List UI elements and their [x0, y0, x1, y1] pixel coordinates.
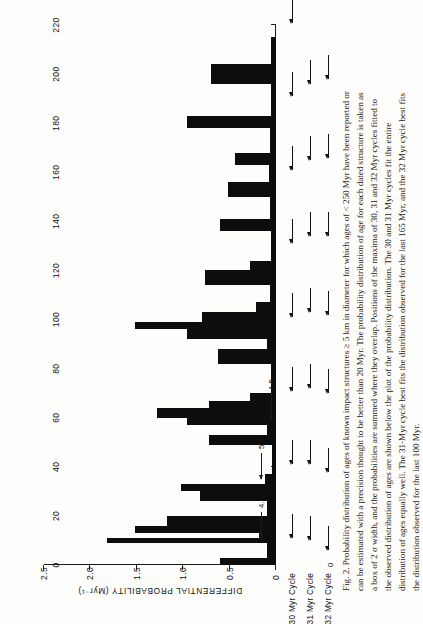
- cycle-maximum-marker: [328, 134, 329, 158]
- histogram-bar: [187, 329, 276, 339]
- cycle-row-label: 31 Myr Cycle: [306, 573, 315, 624]
- cycle-maximum-marker: [292, 219, 293, 243]
- histogram-bar: [267, 339, 276, 349]
- cycle-row: 32 Myr Cycle: [328, 25, 329, 565]
- cycle-maximum-marker: [310, 288, 311, 312]
- annotation-arrow: [271, 394, 272, 420]
- cycle-maximum-marker: [292, 293, 293, 317]
- cycle-row-label: 32 Myr Cycle: [324, 573, 333, 624]
- histogram-bar: [256, 302, 276, 312]
- cycle-maximum-marker: [328, 526, 329, 550]
- annotation-arrow: [261, 512, 262, 538]
- histogram-bar: [270, 285, 276, 302]
- histogram-bar: [272, 445, 276, 474]
- histogram-bar: [220, 558, 276, 565]
- caption-line: a box of 2 σ width, and the probabilitie…: [368, 5, 382, 591]
- cycle-maximum-marker: [292, 514, 293, 538]
- annotation-label: 4.5: [257, 497, 266, 508]
- annotation-label: 5.2: [257, 438, 266, 449]
- histogram-bar: [271, 231, 276, 260]
- cycle-maximum-marker: [310, 516, 311, 540]
- histogram-bar: [270, 197, 276, 219]
- histogram-bar: [187, 116, 276, 128]
- cycle-maximum-marker: [310, 212, 311, 236]
- cycle-row: 31 Myr Cycle: [310, 25, 311, 565]
- y-axis-label: DIFFERENTIAL PROBABILITY (Myr⁻¹): [78, 586, 242, 596]
- histogram-bar: [250, 261, 276, 271]
- histogram-bar: [228, 182, 276, 197]
- histogram-bar: [267, 425, 276, 435]
- caption-line: Fig. 2. Probability distribution of ages…: [340, 5, 354, 591]
- histogram-bar: [250, 393, 276, 400]
- histogram-bar: [271, 84, 276, 116]
- caption-line: distribution of ages equally well. The 3…: [396, 5, 410, 591]
- histogram-bar: [135, 526, 276, 533]
- histogram-bar: [209, 401, 276, 408]
- cycle-maximum-marker: [292, 0, 293, 23]
- histogram-bar: [135, 322, 276, 329]
- cycle-maximum-marker: [292, 367, 293, 391]
- cycle-maximum-marker: [328, 212, 329, 236]
- cycle-maximum-marker: [310, 440, 311, 464]
- y-tick: [275, 565, 276, 570]
- caption-line: the observed distribution of ages are sh…: [382, 5, 396, 591]
- histogram-bar: [269, 165, 276, 182]
- figure-caption: Fig. 2. Probability distribution of ages…: [340, 5, 423, 591]
- y-tick-label: 1.5: [132, 575, 142, 580]
- cycle-maximum-marker: [328, 55, 329, 79]
- histogram-bar: [235, 153, 276, 165]
- y-tick-label: 2.0: [85, 575, 95, 580]
- cycle-row: 30 Myr Cycle: [292, 25, 293, 565]
- y-tick-label: 1.0: [178, 575, 188, 580]
- histogram-bar: [157, 408, 276, 418]
- histogram-bar: [107, 538, 276, 543]
- cycle-maximum-marker: [328, 448, 329, 472]
- histogram-bar: [205, 270, 276, 285]
- cycle-row-label: 30 Myr Cycle: [288, 573, 297, 624]
- cycle-maximum-marker: [328, 369, 329, 393]
- cycle-maximum-marker: [292, 440, 293, 464]
- histogram-bar: [187, 418, 276, 425]
- cycle-maximum-marker: [310, 364, 311, 388]
- histogram-bar: [211, 64, 276, 84]
- histogram-bar: [271, 37, 276, 64]
- caption-line: the distribution observed for the last 1…: [410, 5, 423, 591]
- y-tick-label: 2.5: [39, 575, 49, 580]
- cycle-maximum-marker: [292, 146, 293, 170]
- histogram-bar: [181, 484, 276, 491]
- cycle-maximum-marker: [292, 72, 293, 96]
- annotation-label: 4.5: [267, 379, 276, 390]
- histogram-bar: [265, 474, 276, 484]
- y-tick-label: 0: [271, 575, 281, 580]
- y-tick-label: 0.5: [225, 575, 235, 580]
- cycle-origin-label: 0: [326, 563, 335, 567]
- histogram-bar: [220, 219, 276, 231]
- histogram-bars: [44, 25, 276, 565]
- y-axis-label-text: DIFFERENTIAL PROBABILITY (Myr⁻¹): [78, 586, 242, 595]
- cycle-maximum-marker: [328, 291, 329, 315]
- rotated-caption-container: Fig. 2. Probability distribution of ages…: [336, 0, 418, 595]
- plot-area: 020406080100120140160180200220 00.51.01.…: [44, 25, 276, 565]
- histogram-bar: [267, 543, 276, 558]
- histogram-bar: [267, 501, 276, 516]
- histogram-bar: [202, 312, 276, 322]
- annotation-arrow: [261, 453, 262, 479]
- histogram-bar: [218, 349, 276, 364]
- histogram-bar: [167, 516, 277, 526]
- caption-line: can be estimated with a precision though…: [354, 5, 368, 591]
- cycle-maximum-marker: [310, 136, 311, 160]
- histogram-bar: [270, 128, 276, 153]
- cycle-maximum-marker: [310, 60, 311, 84]
- rotated-figure-container: 020406080100120140160180200220 00.51.01.…: [0, 0, 340, 595]
